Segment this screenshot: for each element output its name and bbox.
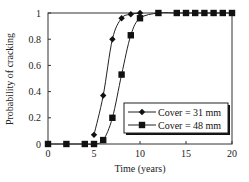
y-tick-label: 0.6 (29, 60, 42, 71)
diamond-marker-icon (100, 92, 106, 98)
square-marker-icon (137, 15, 143, 21)
square-marker-icon (118, 71, 124, 77)
y-tick-label: 0 (36, 139, 41, 150)
square-marker-icon (91, 141, 97, 147)
legend-label: Cover = 31 mm (158, 107, 221, 118)
y-tick-label: 0.2 (29, 112, 42, 123)
x-tick-label: 15 (181, 148, 191, 159)
square-marker-icon (63, 141, 69, 147)
diamond-marker-icon (91, 132, 97, 138)
y-tick-label: 0.4 (29, 86, 42, 97)
square-marker-icon (45, 141, 51, 147)
legend: Cover = 31 mmCover = 48 mm (124, 103, 230, 135)
diamond-marker-icon (109, 36, 115, 42)
square-marker-icon (220, 10, 226, 16)
square-marker-icon (82, 141, 88, 147)
legend-label: Cover = 48 mm (158, 120, 221, 131)
diamond-marker-icon (128, 11, 134, 17)
square-marker-icon (210, 10, 216, 16)
square-marker-icon (128, 32, 134, 38)
y-axis-label: Probability of cracking (4, 33, 15, 125)
square-marker-icon (229, 10, 235, 16)
square-marker-icon (174, 10, 180, 16)
square-marker-icon (155, 10, 161, 16)
x-axis-label: Time (years) (114, 163, 165, 175)
x-tick-label: 20 (227, 148, 237, 159)
square-marker-icon (183, 10, 189, 16)
y-tick-label: 1 (36, 8, 41, 19)
square-marker-icon (100, 137, 106, 143)
y-tick-label: 0.8 (29, 34, 42, 45)
square-marker-icon (109, 115, 115, 121)
square-marker-icon (139, 122, 145, 128)
x-tick-label: 0 (46, 148, 51, 159)
square-marker-icon (201, 10, 207, 16)
probability-chart: 00.20.40.60.81 05101520 Cover = 31 mmCov… (0, 0, 249, 182)
square-marker-icon (192, 10, 198, 16)
x-tick-label: 10 (135, 148, 145, 159)
x-tick-label: 5 (92, 148, 97, 159)
